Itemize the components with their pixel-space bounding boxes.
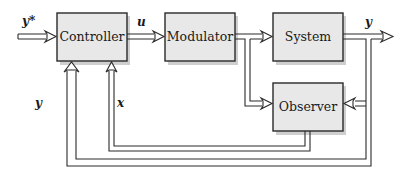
system-block: System [273,13,343,61]
modulator-block: Modulator [165,13,235,61]
state-estimate-label: x [116,96,125,110]
block-diagram: Controller Modulator System Observer y* … [0,0,409,173]
observer-feedback-arrow [344,98,366,109]
system-label: System [285,29,331,44]
modulator-label: Modulator [167,29,233,44]
reference-input-arrow [18,31,56,42]
observer-label: Observer [279,99,337,114]
feedback-output-label: y [34,96,43,110]
control-signal-label: u [137,15,146,29]
output-signal-label: y [364,15,373,29]
modulator-output-arrows [235,31,272,109]
controller-block: Controller [57,13,127,61]
control-signal-arrow [127,31,164,42]
controller-label: Controller [59,29,124,44]
reference-signal-label: y* [21,14,36,28]
observer-block: Observer [273,83,343,131]
